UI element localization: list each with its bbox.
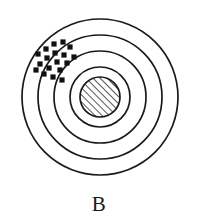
scatter-marker (33, 67, 38, 72)
scatter-marker (44, 55, 49, 60)
scatter-marker (64, 60, 69, 65)
target-diagram (0, 0, 198, 224)
scatter-marker (37, 61, 42, 66)
scatter-marker (43, 46, 48, 51)
scatter-marker (54, 59, 59, 64)
scatter-marker (52, 50, 57, 55)
figure-caption-label: B (0, 192, 198, 216)
figure-container: B (0, 0, 198, 224)
bullseye-hatched-circle (80, 77, 120, 117)
scatter-marker (61, 52, 66, 57)
scatter-marker (35, 51, 40, 56)
scatter-marker (60, 39, 65, 44)
scatter-marker (50, 74, 55, 79)
scatter-marker (57, 67, 62, 72)
ring-group (22, 19, 178, 175)
scatter-marker (59, 77, 64, 82)
scatter-marker (46, 65, 51, 70)
scatter-marker (51, 41, 56, 46)
scatter-marker (41, 71, 46, 76)
scatter-marker (71, 54, 76, 59)
scatter-marker (67, 44, 72, 49)
